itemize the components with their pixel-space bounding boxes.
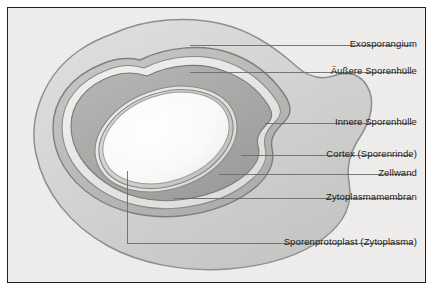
figure-frame: Exosporangium Äußere Sporenhülle Innere … [7, 7, 426, 283]
label-zytoplasmamembran: Zytoplasmamembran [326, 191, 417, 202]
label-sporenprotoplast: Sporenprotoplast (Zytoplasma) [284, 236, 417, 247]
label-aeussere-sporenhuelle: Äußere Sporenhülle [331, 65, 417, 76]
label-zellwand: Zellwand [378, 167, 417, 178]
figure-root: Exosporangium Äußere Sporenhülle Innere … [0, 0, 435, 294]
label-cortex: Cortex (Sporenrinde) [326, 148, 417, 159]
label-innere-sporenhuelle: Innere Sporenhülle [335, 116, 417, 127]
label-exosporangium: Exosporangium [350, 38, 417, 49]
